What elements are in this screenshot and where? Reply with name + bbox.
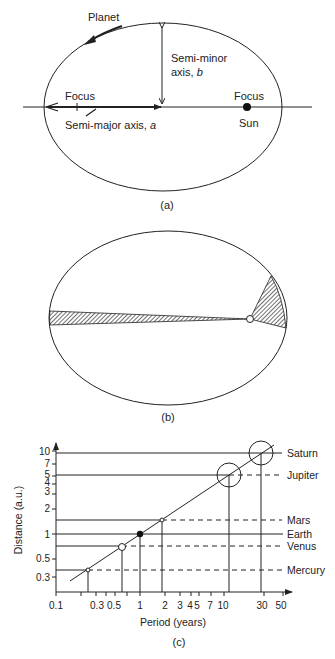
- semi-minor-symbol: b: [197, 66, 203, 78]
- area-sector-perihelion: [250, 276, 286, 328]
- focus-left-label: Focus: [65, 90, 95, 102]
- y-tick-3: 3: [44, 486, 50, 497]
- x-tick-3: 3: [177, 600, 183, 611]
- panel-a-orbit-diagram: Planet Semi-minor axis, b Focus Focus Su…: [23, 11, 312, 211]
- planet-arrowhead: [84, 35, 96, 45]
- label-mars: Mars: [287, 514, 310, 526]
- label-venus: Venus: [287, 540, 316, 552]
- y-tick-0.5: 0.5: [36, 553, 50, 564]
- x-tick-1: 1: [137, 600, 143, 611]
- caption-c: (c): [173, 636, 186, 648]
- y-ticks: [52, 451, 56, 577]
- kepler-fit-line: [70, 445, 274, 581]
- planet-distance-lines: [56, 453, 283, 570]
- panel-c-period-distance-chart: 10 7 5 4 3 2 1 0.5 0.3: [12, 441, 326, 648]
- y-tick-10: 10: [39, 446, 51, 457]
- x-tick-labels: 0.1 0.3 0.5 1 2 3 4 5 7 10 30 50: [49, 600, 287, 611]
- caption-b: (b): [161, 411, 174, 423]
- x-tick-30: 30: [256, 600, 268, 611]
- x-tick-0.5: 0.5: [107, 600, 121, 611]
- x-tick-5: 5: [194, 600, 200, 611]
- x-tick-7: 7: [207, 600, 213, 611]
- planet-label: Planet: [88, 11, 119, 23]
- area-sector-aphelion: [50, 311, 251, 325]
- semi-major-label: Semi-major axis, a: [65, 119, 156, 131]
- y-tick-1: 1: [44, 529, 50, 540]
- sun-open-circle: [247, 316, 254, 323]
- y-tick-0.3: 0.3: [36, 572, 50, 583]
- y-tick-2: 2: [44, 503, 50, 514]
- sun-label: Sun: [239, 117, 259, 129]
- semi-major-label-text: Semi-major axis,: [65, 119, 150, 131]
- semi-minor-label-2: axis, b: [171, 66, 203, 78]
- x-ticks: [56, 592, 283, 596]
- x-tick-0.3: 0.3: [90, 600, 104, 611]
- semi-major-symbol: a: [150, 119, 156, 131]
- marker-mars: [160, 518, 164, 522]
- marker-mercury: [86, 568, 90, 572]
- y-tick-labels: 10 7 5 4 3 2 1 0.5 0.3: [36, 446, 50, 583]
- label-saturn: Saturn: [287, 447, 318, 459]
- marker-venus: [119, 544, 126, 551]
- kepler-laws-figure: Planet Semi-minor axis, b Focus Focus Su…: [0, 0, 335, 659]
- planet-labels: Saturn Jupiter Mars Earth Venus Mercury: [287, 447, 326, 576]
- label-mercury: Mercury: [287, 564, 326, 576]
- label-jupiter: Jupiter: [287, 469, 319, 481]
- y-axis-title: Distance (a.u.): [12, 486, 24, 554]
- x-axis-title: Period (years): [140, 616, 206, 628]
- focus-right-label: Focus: [234, 90, 264, 102]
- y-tick-7: 7: [44, 458, 50, 469]
- sun-dot: [243, 103, 251, 111]
- marker-earth: [137, 531, 143, 537]
- x-tick-10: 10: [217, 600, 229, 611]
- semi-minor-label-line1: Semi-minor: [171, 52, 228, 64]
- label-earth: Earth: [287, 528, 312, 540]
- x-tick-50: 50: [275, 600, 287, 611]
- caption-a: (a): [160, 199, 173, 211]
- semi-major-pointer: [86, 109, 96, 116]
- x-tick-0.1: 0.1: [49, 600, 63, 611]
- planet-period-lines: [88, 453, 261, 592]
- x-tick-2: 2: [162, 600, 168, 611]
- semi-minor-label-line2: axis,: [171, 66, 197, 78]
- x-tick-4: 4: [187, 600, 193, 611]
- panel-b-equal-areas-diagram: (b): [49, 231, 287, 423]
- semi-minor-label: Semi-minor: [171, 52, 228, 64]
